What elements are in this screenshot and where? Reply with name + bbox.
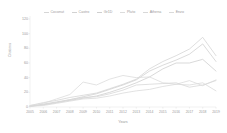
series-line-coconut	[30, 37, 216, 105]
plot-area	[0, 0, 227, 133]
series-line-gr1d	[30, 59, 216, 106]
series-line-enzo	[30, 83, 216, 106]
citations-by-year-line-chart: CoconutCastroGr1DPlutoAthenaEnzo Citatio…	[0, 0, 227, 133]
